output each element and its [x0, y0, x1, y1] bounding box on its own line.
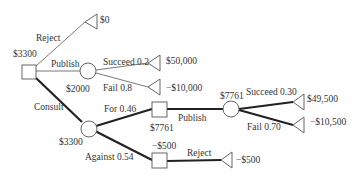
branch-label-consult: Consult — [34, 102, 64, 112]
consult-chance-value: $3300 — [59, 137, 83, 147]
root-value: $3300 — [13, 49, 37, 59]
branch-label-for-publish: Publish — [178, 113, 207, 123]
terminal-node-against-reject — [221, 152, 232, 168]
branch-label-publish-fail: Fail 0.8 — [103, 83, 132, 93]
publish-chance-value: $2000 — [66, 84, 90, 94]
branch-label-publish-succeed: Succeed 0.2 — [103, 57, 149, 67]
chance-node-consult — [81, 121, 97, 137]
payoff-publish-succeed: $50,000 — [166, 56, 197, 66]
terminal-node-for-fail — [293, 117, 304, 133]
chance-node-for-publish — [223, 101, 239, 117]
payoff-publish-fail: −$10,000 — [166, 83, 202, 93]
branch-label-for-succeed: Succeed 0.30 — [246, 87, 297, 97]
branch-label-for-fail: Fail 0.70 — [247, 122, 281, 132]
payoff-against-reject: −$500 — [236, 155, 261, 165]
for-decision-value: $7761 — [150, 123, 174, 133]
payoff-for-fail: −$10,500 — [310, 117, 346, 127]
edge-against-reject — [167, 160, 221, 161]
branch-label-for: For 0.46 — [104, 104, 136, 114]
terminal-node-publish-succeed — [148, 55, 160, 71]
payoff-reject: $0 — [100, 15, 110, 25]
branch-label-reject: Reject — [36, 33, 61, 43]
branch-label-against-reject: Reject — [187, 148, 212, 158]
decision-node-against — [152, 153, 167, 168]
decision-tree: $3300 $2000 $3300 $7761 $7761 −$500 Reje… — [0, 0, 361, 178]
payoff-for-succeed: $49,500 — [307, 94, 338, 104]
decision-node-root — [22, 65, 36, 79]
terminal-node-publish-fail — [148, 79, 160, 95]
for-publish-chance-value: $7761 — [220, 91, 244, 101]
branch-label-publish: Publish — [51, 59, 80, 69]
edge-for-succeed — [239, 102, 293, 109]
terminal-node-reject — [85, 14, 97, 29]
chance-node-publish — [80, 63, 96, 79]
branch-label-against: Against 0.54 — [85, 152, 134, 162]
decision-node-for — [152, 102, 167, 117]
against-decision-value: −$500 — [152, 141, 177, 151]
